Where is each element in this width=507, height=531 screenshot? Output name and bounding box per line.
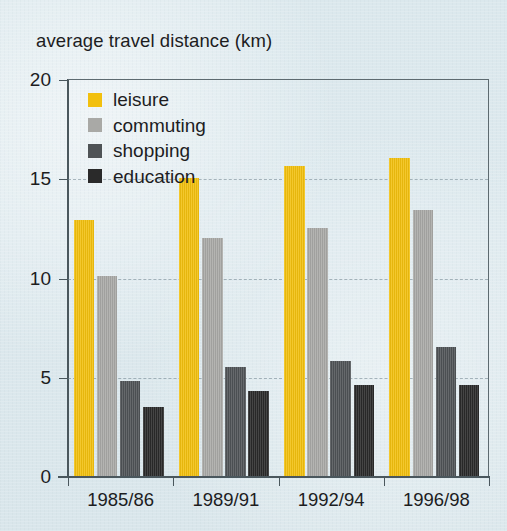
- bar-texture: [436, 347, 457, 476]
- bar-texture: [248, 391, 269, 476]
- legend-label-education: education: [113, 167, 195, 186]
- bar-leisure-1992-94: [284, 166, 305, 476]
- x-axis-line: [58, 476, 490, 478]
- x-tick-label-1996-98: 1996/98: [403, 489, 470, 511]
- bar-texture: [202, 238, 223, 476]
- bar-education-1996-98: [459, 385, 480, 476]
- bar-texture: [354, 385, 375, 476]
- y-tick-mark-0: [59, 477, 68, 478]
- x-tick-mark-2: [279, 477, 280, 486]
- legend-swatch-shopping: [88, 144, 102, 158]
- bar-education-1992-94: [354, 385, 375, 476]
- legend-item-shopping[interactable]: shopping: [88, 138, 206, 164]
- bar-texture: [459, 385, 480, 476]
- legend-item-commuting[interactable]: commuting: [88, 113, 206, 139]
- y-tick-mark-10: [59, 279, 68, 280]
- x-tick-label-1992-94: 1992/94: [298, 489, 365, 511]
- legend-swatch-education: [88, 169, 102, 183]
- y-tick-label-10: 10: [9, 268, 51, 290]
- bar-shopping-1996-98: [436, 347, 457, 476]
- bar-texture: [413, 210, 434, 476]
- chart-legend: leisurecommutingshoppingeducation: [88, 87, 206, 189]
- legend-label-shopping: shopping: [113, 141, 190, 160]
- legend-swatch-leisure: [88, 93, 102, 107]
- bar-texture: [179, 178, 200, 476]
- y-tick-label-20: 20: [9, 69, 51, 91]
- bar-texture: [284, 166, 305, 476]
- bar-shopping-1992-94: [330, 361, 351, 476]
- bar-leisure-1996-98: [389, 158, 410, 476]
- x-tick-label-1985-86: 1985/86: [87, 489, 154, 511]
- bar-texture: [120, 381, 141, 476]
- legend-item-leisure[interactable]: leisure: [88, 87, 206, 113]
- bar-commuting-1985-86: [97, 276, 118, 476]
- bar-texture: [389, 158, 410, 476]
- legend-label-leisure: leisure: [113, 90, 169, 109]
- y-tick-mark-5: [59, 378, 68, 379]
- y-tick-label-15: 15: [9, 168, 51, 190]
- bar-leisure-1989-91: [179, 178, 200, 476]
- bar-texture: [143, 407, 164, 476]
- bar-education-1989-91: [248, 391, 269, 476]
- x-tick-label-1989-91: 1989/91: [192, 489, 259, 511]
- y-tick-label-0: 0: [9, 466, 51, 488]
- y-tick-mark-15: [59, 179, 68, 180]
- x-tick-mark-1: [173, 477, 174, 486]
- bar-shopping-1985-86: [120, 381, 141, 476]
- bar-texture: [225, 367, 246, 476]
- bar-shopping-1989-91: [225, 367, 246, 476]
- bar-texture: [97, 276, 118, 476]
- chart-title: average travel distance (km): [36, 30, 272, 52]
- y-tick-mark-20: [59, 80, 68, 81]
- x-tick-mark-4: [489, 477, 490, 486]
- bar-texture: [74, 220, 95, 476]
- x-tick-mark-0: [68, 477, 69, 486]
- bar-leisure-1985-86: [74, 220, 95, 476]
- legend-label-commuting: commuting: [113, 116, 206, 135]
- bar-texture: [330, 361, 351, 476]
- bar-commuting-1996-98: [413, 210, 434, 476]
- legend-swatch-commuting: [88, 118, 102, 132]
- y-tick-label-5: 5: [9, 367, 51, 389]
- bar-texture: [307, 228, 328, 476]
- legend-item-education[interactable]: education: [88, 164, 206, 190]
- bar-commuting-1989-91: [202, 238, 223, 476]
- bar-education-1985-86: [143, 407, 164, 476]
- bar-commuting-1992-94: [307, 228, 328, 476]
- x-tick-mark-3: [384, 477, 385, 486]
